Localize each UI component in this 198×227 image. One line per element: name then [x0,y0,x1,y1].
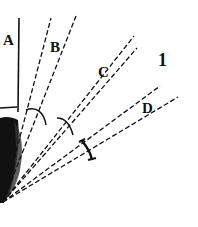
label-c: C [98,65,109,80]
basal-stub [0,107,17,108]
panel-number: 1 [158,51,167,69]
cross-vein-cd [82,141,92,160]
cross-vein-bc [57,118,73,135]
label-b: B [50,40,60,55]
label-d: D [142,101,153,116]
label-a: A [3,33,14,48]
cross-vein-cd-bot [88,158,96,160]
margin-line-a [18,18,19,112]
vein-5 [3,86,160,202]
diagram-figure: A B C D 1 [0,0,198,227]
fan-drawing [0,0,198,227]
